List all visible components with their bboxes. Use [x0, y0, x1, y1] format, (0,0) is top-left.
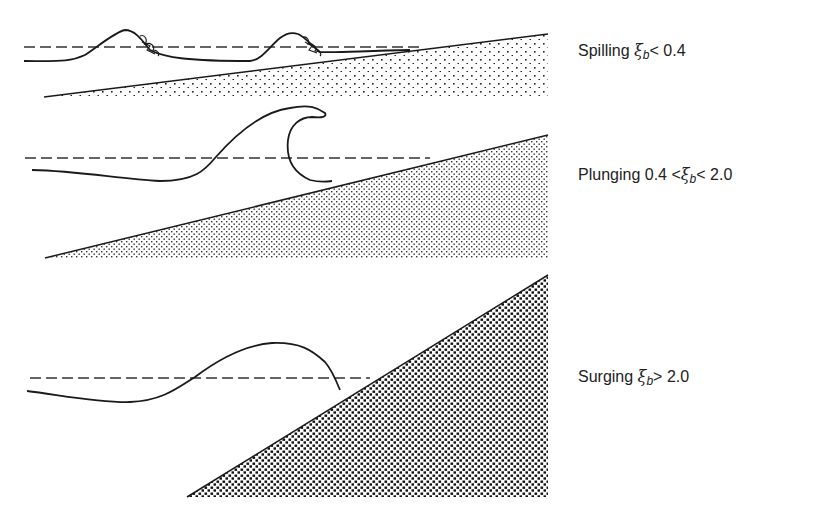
condition-value: > 2.0: [653, 368, 689, 385]
breaker-type-name: Surging: [578, 368, 633, 385]
wave-breaker-diagram: [0, 0, 814, 524]
breaker-type-name: Spilling: [578, 42, 630, 59]
label-spilling: Spilling ξb< 0.4: [578, 41, 686, 61]
condition-prefix: 0.4 <: [645, 166, 681, 183]
wave-profile-plunging: [32, 106, 332, 181]
iribarren-symbol: ξ: [634, 41, 643, 60]
condition-value: < 2.0: [696, 166, 732, 183]
iribarren-subscript: b: [643, 48, 650, 62]
wave-profile-spilling: [24, 30, 410, 61]
label-plunging: Plunging 0.4 <ξb< 2.0: [578, 165, 732, 185]
iribarren-symbol: ξ: [681, 165, 690, 184]
breaker-type-name: Plunging: [578, 166, 640, 183]
label-surging: Surging ξb> 2.0: [578, 367, 689, 387]
wave-profile-surging: [27, 343, 340, 402]
panel-plunging: [25, 106, 548, 258]
panel-spilling: [24, 30, 548, 97]
panel-surging: [27, 275, 548, 497]
condition-value: < 0.4: [650, 42, 686, 59]
breaking-foam-icon: [140, 36, 321, 56]
